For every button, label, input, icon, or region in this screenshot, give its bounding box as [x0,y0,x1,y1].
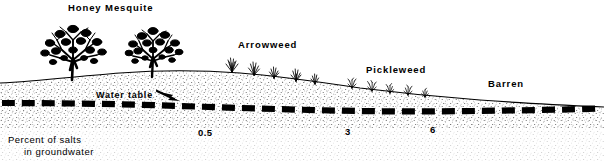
caption-line-1: Percent of salts [8,134,94,146]
caption-line-2: in groundwater [8,146,94,158]
mesquite-tree-1 [41,25,106,80]
mesquite-tree-2 [125,28,183,77]
label-arrowweed: Arrowweed [238,39,297,50]
tick-label-3: 3 [345,126,351,137]
label-water-table: Water table [96,90,153,100]
label-honey-mesquite: Honey Mesquite [68,2,153,13]
vegetation-salinity-diagram: Honey Mesquite Arrowweed Pickleweed Barr… [0,0,604,161]
tick-label-6: 6 [430,124,436,135]
tick-label-0.5: 0.5 [198,127,212,138]
label-barren: Barren [488,78,524,89]
label-pickleweed: Pickleweed [366,64,426,75]
axis-caption: Percent of salts in groundwater [8,134,94,158]
